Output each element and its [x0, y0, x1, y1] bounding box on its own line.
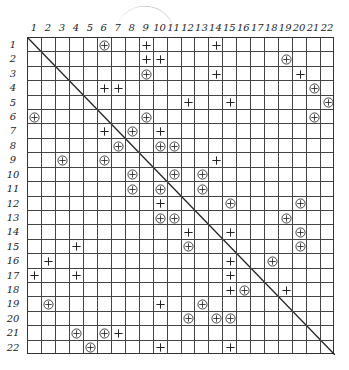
plus-icon [223, 269, 237, 283]
circled-plus-icon [195, 168, 209, 182]
circled-plus-icon [279, 211, 293, 225]
plus-icon [154, 52, 168, 66]
circled-plus-icon [168, 139, 182, 153]
column-label: 12 [181, 22, 195, 33]
row-label: 11 [4, 183, 22, 194]
circled-plus-icon [140, 110, 154, 124]
circled-plus-icon [237, 283, 251, 297]
plus-icon [223, 254, 237, 268]
row-label: 4 [4, 82, 22, 93]
circled-plus-icon [154, 139, 168, 153]
column-label: 22 [320, 22, 334, 33]
circled-plus-icon [42, 297, 56, 311]
plus-icon [223, 283, 237, 297]
plus-icon [223, 96, 237, 110]
row-label: 8 [4, 140, 22, 151]
plus-icon [42, 254, 56, 268]
row-label: 16 [4, 255, 22, 266]
plus-icon [154, 297, 168, 311]
plus-icon [112, 326, 126, 340]
circled-plus-icon [98, 38, 112, 52]
row-label: 1 [4, 39, 22, 50]
circled-plus-icon [154, 182, 168, 196]
circled-plus-icon [195, 297, 209, 311]
circled-plus-icon [98, 326, 112, 340]
column-label: 9 [139, 22, 153, 33]
plus-icon [223, 225, 237, 239]
plus-icon [209, 153, 223, 167]
row-label: 3 [4, 68, 22, 79]
grid-line [264, 38, 265, 353]
plus-icon [209, 38, 223, 52]
row-label: 20 [4, 313, 22, 324]
circled-plus-icon [84, 341, 98, 355]
plus-icon [28, 269, 42, 283]
column-label: 5 [83, 22, 97, 33]
circled-plus-icon [126, 124, 140, 138]
circled-plus-icon [223, 197, 237, 211]
circled-plus-icon [168, 211, 182, 225]
plus-icon [182, 96, 196, 110]
plus-icon [279, 283, 293, 297]
grid-line [236, 38, 237, 353]
plus-icon [98, 124, 112, 138]
circled-plus-icon [307, 81, 321, 95]
circled-plus-icon [126, 168, 140, 182]
circled-plus-icon [279, 52, 293, 66]
column-label: 15 [222, 22, 236, 33]
column-label: 13 [194, 22, 208, 33]
row-label: 13 [4, 212, 22, 223]
row-label: 12 [4, 198, 22, 209]
row-label: 21 [4, 327, 22, 338]
column-label: 4 [69, 22, 83, 33]
column-label: 14 [208, 22, 222, 33]
plus-icon [112, 81, 126, 95]
column-label: 1 [27, 22, 41, 33]
circled-plus-icon [140, 67, 154, 81]
grid-line [250, 38, 251, 353]
plus-icon [154, 197, 168, 211]
plus-icon [154, 124, 168, 138]
plus-icon [140, 38, 154, 52]
circled-plus-icon [293, 197, 307, 211]
column-label: 11 [167, 22, 181, 33]
row-label: 14 [4, 226, 22, 237]
circled-plus-icon [70, 326, 84, 340]
row-label: 18 [4, 284, 22, 295]
column-label: 2 [41, 22, 55, 33]
circled-plus-icon [307, 110, 321, 124]
diagonal-line [28, 38, 335, 355]
column-label: 10 [153, 22, 167, 33]
circled-plus-icon [56, 153, 70, 167]
grid-line [222, 38, 223, 353]
circled-plus-icon [154, 211, 168, 225]
grid-line [28, 311, 333, 312]
plus-icon [140, 52, 154, 66]
column-label: 21 [306, 22, 320, 33]
column-label: 19 [278, 22, 292, 33]
row-label: 5 [4, 97, 22, 108]
circled-plus-icon [126, 182, 140, 196]
row-label: 15 [4, 241, 22, 252]
plus-icon [182, 225, 196, 239]
column-label: 18 [264, 22, 278, 33]
column-label: 3 [55, 22, 69, 33]
row-label: 19 [4, 298, 22, 309]
circled-plus-icon [265, 254, 279, 268]
row-label: 17 [4, 270, 22, 281]
row-label: 22 [4, 342, 22, 353]
row-label: 10 [4, 169, 22, 180]
plus-icon [154, 341, 168, 355]
circled-plus-icon [223, 312, 237, 326]
circled-plus-icon [182, 312, 196, 326]
matrix-figure: 12345678910111213141516171819202122 1234… [0, 0, 349, 370]
circled-plus-icon [293, 225, 307, 239]
plus-icon [98, 81, 112, 95]
matrix-grid [27, 37, 334, 354]
circled-plus-icon [98, 153, 112, 167]
column-label: 7 [111, 22, 125, 33]
plus-icon [293, 67, 307, 81]
column-label: 17 [250, 22, 264, 33]
column-label: 8 [125, 22, 139, 33]
plus-icon [70, 269, 84, 283]
